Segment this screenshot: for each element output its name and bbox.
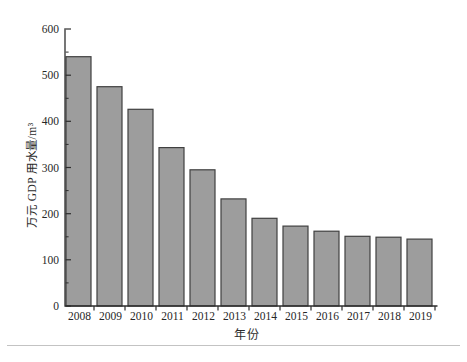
x-tick-label-2014: 2014 [254,310,277,322]
x-tick-label-2009: 2009 [99,310,122,322]
x-tick-label-2010: 2010 [130,310,153,322]
y-tick-label-400: 400 [42,115,60,127]
y-tick-label-600: 600 [42,23,60,35]
x-tick-label-2016: 2016 [316,310,339,322]
bar-2011 [159,148,184,306]
bar-2009 [97,87,122,306]
y-tick-label-100: 100 [42,254,60,266]
y-tick-label-0: 0 [53,300,59,312]
bar-2010 [128,109,153,306]
x-tick-label-2018: 2018 [378,310,401,322]
bar-2008 [66,57,91,306]
gdp-water-use-bar-chart: 0100200300400500600200820092010201120122… [0,0,467,362]
x-tick-label-2008: 2008 [68,310,91,322]
scanned-figure-page: 0100200300400500600200820092010201120122… [0,0,467,362]
x-tick-label-2011: 2011 [161,310,184,322]
x-tick-label-2015: 2015 [285,310,308,322]
y-tick-label-300: 300 [42,162,60,174]
x-tick-label-2012: 2012 [192,310,215,322]
page-separator-line [7,345,460,346]
bar-2016 [314,231,339,306]
bar-2015 [283,226,308,306]
bar-2019 [407,239,432,306]
x-tick-label-2013: 2013 [223,310,246,322]
bar-2018 [376,237,401,306]
x-axis-title: 年份 [234,325,260,343]
bar-2013 [221,199,246,306]
y-tick-label-500: 500 [42,69,60,81]
x-tick-label-2017: 2017 [347,310,370,322]
bar-2012 [190,170,215,306]
bar-2014 [252,218,277,306]
chart-canvas: 0100200300400500600200820092010201120122… [0,0,467,362]
y-axis-title: 万元 GDP 用水量/m³ [23,122,39,227]
y-tick-label-200: 200 [42,208,60,220]
bar-2017 [345,236,370,306]
x-tick-label-2019: 2019 [409,310,432,322]
